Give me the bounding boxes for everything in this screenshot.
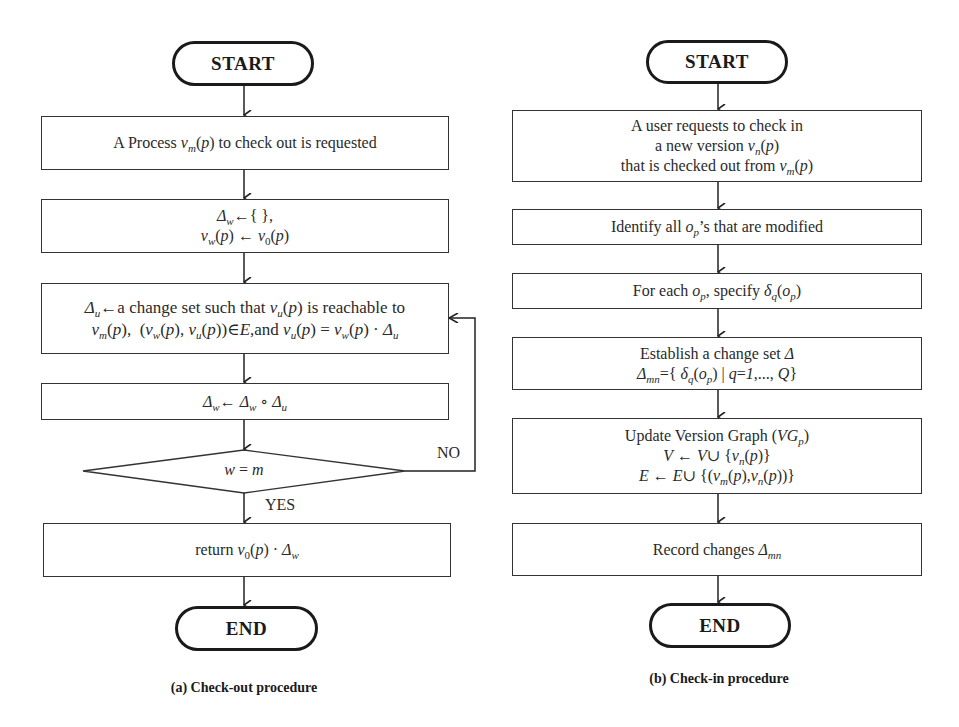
decision-no-label: NO: [437, 444, 460, 462]
checkin-end-terminal: END: [649, 603, 791, 648]
checkin-step-update-graph: Update Version Graph (VGp) V ← V∪ {vn(p)…: [512, 418, 922, 494]
step-text-line1: Establish a change set Δ: [640, 344, 794, 364]
step-text-line2: V ← V∪ {vn(p)}: [663, 446, 771, 466]
step-text: Identify all op’s that are modified: [611, 217, 823, 237]
step-text-line2: vm(p), (vw(p), vu(p))∈E,and vu(p) = vw(p…: [92, 319, 399, 341]
checkout-caption: (a) Check-out procedure: [94, 680, 394, 696]
step-text-line1: Update Version Graph (VGp): [625, 426, 809, 446]
checkin-step-identify: Identify all op’s that are modified: [512, 209, 922, 245]
step-text: For each op, specify δq(op): [633, 281, 801, 301]
step-text-line2: vw(p) ← v0(p): [201, 226, 289, 246]
checkin-step-change-set: Establish a change set Δ Δmn={ δq(op) | …: [512, 337, 922, 390]
step-text: Δw← Δw ∘ Δu: [203, 392, 287, 412]
start-label: START: [211, 53, 275, 75]
step-text: A Process vm(p) to check out is requeste…: [113, 133, 376, 153]
checkout-step-compose: Δw← Δw ∘ Δu: [41, 383, 449, 420]
checkin-step-request: A user requests to check in a new versio…: [512, 110, 922, 182]
checkout-start-terminal: START: [172, 41, 314, 86]
end-label: END: [226, 618, 268, 640]
step-text-line2: Δmn={ δq(op) | q=1,..., Q}: [637, 364, 797, 384]
step-text-line1: Δu←a change set such that vu(p) is reach…: [85, 297, 405, 319]
step-text: return v0(p) · Δw: [195, 540, 299, 560]
start-label: START: [685, 51, 749, 73]
end-label: END: [699, 615, 741, 637]
step-text-line3: E ← E∪ {(vm(p),vn(p))}: [639, 466, 795, 486]
checkin-caption: (b) Check-in procedure: [569, 671, 869, 687]
checkout-step-change-set: Δu←a change set such that vu(p) is reach…: [41, 283, 449, 354]
checkout-end-terminal: END: [175, 606, 318, 651]
step-text: Record changes Δmn: [653, 540, 782, 560]
step-text-line1: Δw←{ },: [217, 206, 273, 226]
step-text-line3: that is checked out from vm(p): [621, 156, 813, 176]
checkin-step-record: Record changes Δmn: [512, 523, 922, 576]
checkout-step-return: return v0(p) · Δw: [43, 523, 451, 577]
checkout-step-request: A Process vm(p) to check out is requeste…: [41, 116, 449, 170]
decision-condition: w = m: [184, 461, 304, 479]
decision-yes-label: YES: [265, 496, 295, 514]
step-text-line1: A user requests to check in: [631, 116, 803, 136]
checkout-step-init: Δw←{ }, vw(p) ← v0(p): [41, 199, 449, 253]
checkin-start-terminal: START: [646, 40, 788, 84]
checkin-step-specify: For each op, specify δq(op): [512, 273, 922, 309]
step-text-line2: a new version vn(p): [655, 136, 779, 156]
